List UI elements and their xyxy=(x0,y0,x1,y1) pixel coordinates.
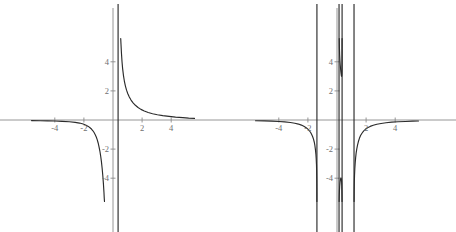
x-tick-label: 4 xyxy=(169,123,174,133)
x-tick-label: 4 xyxy=(393,123,398,133)
x-tick-label: -2 xyxy=(80,123,87,133)
x-tick-label: -4 xyxy=(51,123,59,133)
y-tick-label: -4 xyxy=(326,173,334,183)
y-tick-label: 4 xyxy=(329,57,334,67)
plot-left-axes xyxy=(0,8,228,232)
y-tick-label: 4 xyxy=(105,57,110,67)
plot-panel-left: -4-224-4-224 xyxy=(0,0,228,232)
data-curve xyxy=(121,39,195,119)
plot-panel-right: -4-224-4-224 xyxy=(228,0,456,232)
x-tick-label: -4 xyxy=(275,123,283,133)
y-tick-label: 2 xyxy=(105,86,109,96)
y-tick-label: -4 xyxy=(102,173,110,183)
plot-right-svg: -4-224-4-224 xyxy=(228,0,456,232)
x-tick-label: 2 xyxy=(364,123,368,133)
data-curve xyxy=(32,121,105,202)
data-curve xyxy=(354,121,418,201)
y-tick-label: -2 xyxy=(326,144,333,154)
x-tick-label: -2 xyxy=(304,123,311,133)
x-tick-label: 2 xyxy=(140,123,144,133)
plot-left-svg: -4-224-4-224 xyxy=(0,0,228,232)
data-curve xyxy=(339,39,342,77)
y-tick-label: 2 xyxy=(329,86,333,96)
data-curve xyxy=(256,121,317,202)
y-tick-label: -2 xyxy=(102,144,109,154)
figure-canvas: -4-224-4-224 -4-224-4-224 xyxy=(0,0,456,232)
